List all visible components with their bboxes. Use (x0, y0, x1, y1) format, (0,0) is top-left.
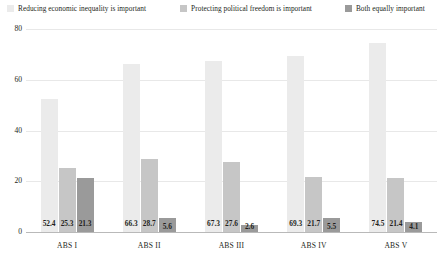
bar-value-label: 52.4 (43, 220, 56, 228)
legend-item-both-equally-important: Both equally important (345, 4, 425, 13)
bar-series-1: 74.5 (369, 43, 386, 232)
bar-series-3: 5.6 (159, 218, 176, 232)
bar-value-label: 67.3 (207, 220, 220, 228)
bar-group: 69.321.75.5ABS IV (273, 17, 355, 267)
legend-swatch-icon-series-1 (7, 5, 14, 12)
x-axis-category-label: ABS II (108, 241, 190, 250)
bar-series-2: 27.6 (223, 162, 240, 232)
y-axis-tick-label: 60 (14, 76, 22, 84)
bar-value-label: 4.1 (409, 223, 418, 231)
x-axis-category-label: ABS V (355, 241, 437, 250)
bar-series-3: 21.3 (77, 178, 94, 232)
x-axis-category-label: ABS I (26, 241, 108, 250)
bar-series-3: 4.1 (405, 222, 422, 232)
legend-label-series-2: Protecting political freedom is importan… (191, 4, 312, 13)
y-axis-tick-label: 0 (18, 228, 22, 236)
bar-value-label: 21.3 (79, 220, 92, 228)
bar-series-2: 21.4 (387, 178, 404, 232)
chart-legend: Reducing economic inequality is importan… (0, 0, 437, 17)
bar-value-label: 66.3 (125, 220, 138, 228)
bar-chart: Reducing economic inequality is importan… (0, 0, 437, 267)
bar-group: 66.328.75.6ABS II (108, 17, 190, 267)
y-axis-tick-label: 40 (14, 127, 22, 135)
y-axis: 806040200 (0, 17, 26, 267)
bar-value-label: 25.3 (61, 220, 74, 228)
bar-value-label: 5.6 (163, 223, 172, 231)
bar-group: 74.521.44.1ABS V (355, 17, 437, 267)
legend-swatch-icon-series-2 (180, 5, 187, 12)
bar-groups: 52.425.321.3ABS I66.328.75.6ABS II67.327… (26, 17, 437, 267)
legend-item-reducing-economic-inequality: Reducing economic inequality is importan… (7, 4, 146, 13)
bar-series-1: 52.4 (41, 99, 58, 232)
y-axis-tick-label: 20 (14, 177, 22, 185)
bar-value-label: 69.3 (289, 220, 302, 228)
plot-area: 806040200 52.425.321.3ABS I66.328.75.6AB… (0, 17, 437, 267)
bar-value-label: 2.6 (245, 223, 254, 231)
bar-value-label: 21.7 (307, 220, 320, 228)
legend-item-protecting-political-freedom: Protecting political freedom is importan… (180, 4, 312, 13)
bar-value-label: 74.5 (371, 220, 384, 228)
legend-label-series-3: Both equally important (356, 4, 425, 13)
x-axis-category-label: ABS III (190, 241, 272, 250)
bar-series-2: 21.7 (305, 177, 322, 232)
bar-series-2: 28.7 (141, 159, 158, 232)
bar-series-3: 5.5 (323, 218, 340, 232)
x-axis-category-label: ABS IV (273, 241, 355, 250)
bar-group: 52.425.321.3ABS I (26, 17, 108, 267)
bar-value-label: 21.4 (389, 220, 402, 228)
bar-value-label: 27.6 (225, 220, 238, 228)
bar-value-label: 28.7 (143, 220, 156, 228)
y-axis-tick-label: 80 (14, 25, 22, 33)
bar-series-2: 25.3 (59, 168, 76, 232)
bar-value-label: 5.5 (327, 223, 336, 231)
legend-label-series-1: Reducing economic inequality is importan… (18, 4, 146, 13)
bar-series-1: 66.3 (123, 64, 140, 232)
bar-series-1: 69.3 (287, 56, 304, 232)
bar-series-3: 2.6 (241, 225, 258, 232)
legend-swatch-icon-series-3 (345, 5, 352, 12)
bar-series-1: 67.3 (205, 61, 222, 232)
bar-group: 67.327.62.6ABS III (190, 17, 272, 267)
